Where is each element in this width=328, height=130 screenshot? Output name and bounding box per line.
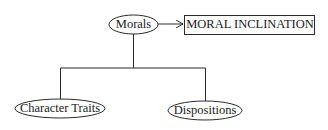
diagram-canvas: Morals MORAL INCLINATION Character Trait… (0, 0, 328, 130)
dispositions-node-label: Dispositions (168, 104, 242, 117)
character-traits-node-label: Character Traits (15, 102, 105, 115)
morals-node-label: Morals (109, 18, 158, 31)
moral-inclination-label: MORAL INCLINATION (185, 18, 315, 31)
